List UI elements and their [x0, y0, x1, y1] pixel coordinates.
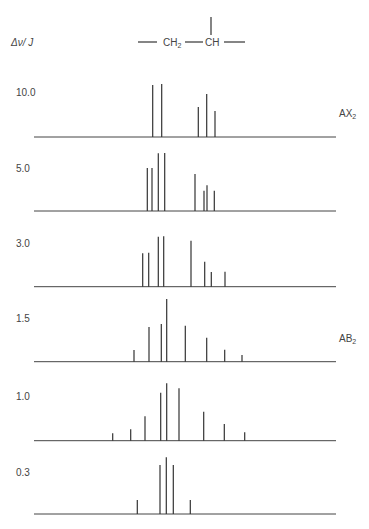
ch-group: CH: [205, 37, 219, 48]
panel-label: 0.3: [16, 467, 30, 478]
spectrum-panel: 10.0AX2: [16, 84, 356, 137]
panel-label: 3.0: [16, 238, 30, 249]
axis-label: Δν/ J: [10, 37, 34, 48]
spectrum-panel: 0.3: [16, 457, 336, 514]
spectrum-panel: 1.0: [16, 383, 336, 440]
spin-system-label: AX2: [339, 108, 356, 120]
ch2-group: CH2: [163, 37, 181, 49]
spectrum-panels: 10.0AX25.03.01.5AB21.00.3: [16, 84, 356, 514]
panel-label: 1.5: [16, 313, 30, 324]
panel-label: 5.0: [16, 163, 30, 174]
molecular-structure: CH2 CH: [138, 17, 245, 49]
spectrum-panel: 3.0: [16, 236, 336, 286]
panel-label: 1.0: [16, 391, 30, 402]
spectrum-panel: 1.5AB2: [16, 299, 356, 362]
panel-label: 10.0: [16, 87, 36, 98]
spectrum-panel: 5.0: [16, 153, 336, 211]
spin-system-label: AB2: [339, 333, 356, 345]
spectra-chart: Δν/ J CH2 CH 10.0AX25.03.01.5AB21.00.3: [0, 0, 369, 529]
